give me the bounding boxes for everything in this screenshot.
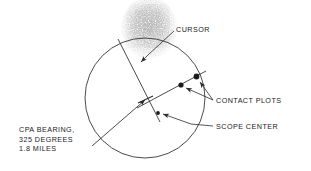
label-contact-plots: CONTACT PLOTS: [216, 96, 282, 106]
label-cpa-bearing: CPA BEARING, 325 DEGREES 1.8 MILES: [19, 125, 75, 154]
scope-center-dot: [156, 111, 160, 115]
cpa-tick-mark: [138, 96, 153, 103]
label-scope-center: SCOPE CENTER: [216, 122, 278, 132]
cpa-bearing-leader: [92, 100, 145, 146]
label-cpa-line3: 1.8 MILES: [19, 144, 75, 154]
radar-scope-figure: CURSOR CONTACT PLOTS SCOPE CENTER CPA BE…: [0, 0, 311, 171]
label-cursor: CURSOR: [176, 25, 210, 35]
contact-plot-dot: [178, 82, 183, 87]
label-cpa-line1: CPA BEARING,: [19, 125, 75, 135]
contact-plot-dot: [194, 74, 200, 80]
scope-center-leader: [163, 114, 213, 126]
label-cpa-line2: 325 DEGREES: [19, 135, 75, 145]
